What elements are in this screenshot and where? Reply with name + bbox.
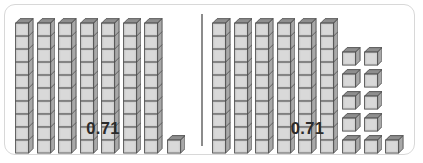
blocks-area-right bbox=[201, 5, 414, 121]
panel-value-right: 0.71 bbox=[201, 119, 414, 138]
base-ten-blocks-figure: 0.71 0.71 bbox=[4, 4, 415, 155]
unit-cube bbox=[364, 69, 382, 87]
ten-rod bbox=[255, 18, 273, 122]
blocks-panel-right: 0.71 bbox=[201, 5, 414, 154]
ten-rod bbox=[15, 18, 33, 122]
ten-rod bbox=[277, 18, 295, 122]
ten-rod bbox=[80, 18, 98, 122]
ten-rod bbox=[101, 18, 119, 122]
blocks-panel-left: 0.71 bbox=[5, 5, 201, 154]
ten-rod bbox=[144, 18, 162, 122]
ten-rod bbox=[123, 18, 141, 122]
unit-cube bbox=[342, 91, 360, 109]
unit-cube bbox=[364, 91, 382, 109]
unit-cube bbox=[364, 47, 382, 65]
ten-rod bbox=[320, 18, 338, 122]
unit-cube bbox=[342, 47, 360, 65]
ten-rod bbox=[37, 18, 55, 122]
panel-value-left: 0.71 bbox=[5, 119, 201, 138]
ten-rod bbox=[298, 18, 316, 122]
blocks-area-left bbox=[5, 5, 201, 121]
unit-cube bbox=[342, 69, 360, 87]
ten-rod bbox=[58, 18, 76, 122]
ten-rod bbox=[212, 18, 230, 122]
ten-rod bbox=[234, 18, 252, 122]
